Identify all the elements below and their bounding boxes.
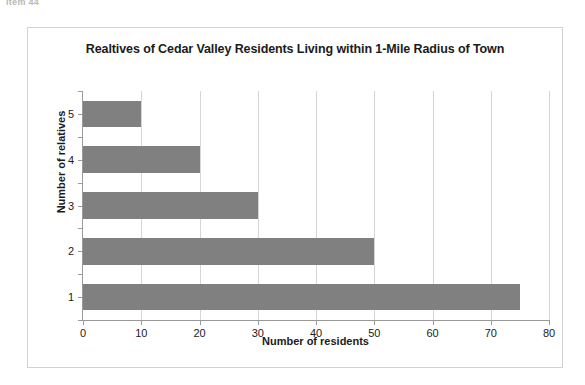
y-axis-minor-tick [78, 320, 83, 321]
x-axis-tick [491, 320, 492, 325]
scan-header-text: Item 44 [6, 0, 39, 7]
x-axis-tick [316, 320, 317, 325]
plot-area: 0102030405060708054321 [82, 91, 549, 321]
x-axis-tick [258, 320, 259, 325]
y-tick-label: 3 [68, 200, 74, 212]
y-tick-label: 4 [68, 154, 74, 166]
x-axis-tick [200, 320, 201, 325]
x-axis-tick [83, 320, 84, 325]
y-axis-minor-tick [78, 137, 83, 138]
bar [83, 101, 141, 128]
x-axis-tick [433, 320, 434, 325]
y-axis-minor-tick [78, 274, 83, 275]
y-axis-tick [78, 160, 83, 161]
y-axis-title: Number of relatives [55, 82, 67, 242]
y-axis-minor-tick [78, 228, 83, 229]
y-tick-label: 1 [68, 291, 74, 303]
bar [83, 284, 520, 311]
chart-title: Realtives of Cedar Valley Residents Livi… [28, 42, 562, 56]
y-axis-tick [78, 206, 83, 207]
y-axis-tick [78, 297, 83, 298]
y-tick-label: 2 [68, 245, 74, 257]
bar [83, 146, 200, 173]
x-axis-title: Number of residents [82, 335, 549, 347]
y-axis-tick [78, 251, 83, 252]
x-axis-tick [549, 320, 550, 325]
y-axis-tick [78, 114, 83, 115]
bar [83, 192, 258, 219]
bar [83, 238, 374, 265]
y-axis-minor-tick [78, 183, 83, 184]
x-gridline [549, 91, 550, 320]
y-tick-label: 5 [68, 108, 74, 120]
chart-frame: Realtives of Cedar Valley Residents Livi… [27, 27, 563, 368]
x-axis-tick [141, 320, 142, 325]
x-axis-tick [374, 320, 375, 325]
y-axis-minor-tick [78, 91, 83, 92]
